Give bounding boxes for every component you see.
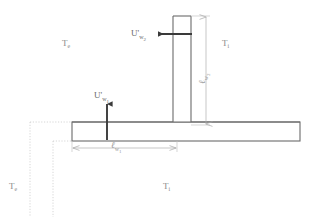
flux-label-u-w2: U'w2 bbox=[131, 29, 146, 41]
flux-sub-subscript: 1 bbox=[106, 98, 109, 103]
dimension-label-l-w1: ℓw1 bbox=[111, 141, 122, 153]
dimension-sub-subscript: 1 bbox=[119, 148, 122, 153]
vertical-wall-fill bbox=[173, 16, 191, 122]
dimension-subscript: w2 bbox=[203, 73, 209, 80]
temperature-subscript: e bbox=[15, 186, 18, 192]
temperature-label-ti-bottom-center: Ti bbox=[163, 182, 170, 192]
flux-sub-subscript: 2 bbox=[143, 36, 146, 41]
construction-lines-group bbox=[30, 122, 72, 217]
flux-subscript: w1 bbox=[102, 96, 109, 102]
diagram-vector-layer bbox=[0, 0, 313, 217]
temperature-label-te-bottom-left: Te bbox=[9, 182, 17, 192]
dimension-w1-group bbox=[72, 141, 177, 152]
temperature-subscript: e bbox=[68, 43, 71, 49]
temperature-label-ti-top-right: Ti bbox=[222, 39, 229, 49]
dimension-label-l-w2: ℓw2 bbox=[198, 73, 210, 84]
dimension-sub-subscript: 2 bbox=[205, 73, 210, 76]
dimension-base-symbol: ℓ bbox=[197, 80, 207, 84]
temperature-subscript: i bbox=[169, 186, 171, 192]
wall-outline-group bbox=[173, 16, 191, 122]
diagram-canvas: Te Ti Te Ti U'w2 U'w1 ℓw1 ℓw2 bbox=[0, 0, 313, 217]
flux-subscript: w2 bbox=[139, 34, 146, 40]
dimension-w2-group bbox=[191, 16, 210, 125]
temperature-label-te-top-left: Te bbox=[62, 39, 70, 49]
temperature-subscript: i bbox=[228, 43, 230, 49]
dimension-subscript: w1 bbox=[115, 146, 122, 152]
flux-label-u-w1: U'w1 bbox=[94, 91, 109, 103]
